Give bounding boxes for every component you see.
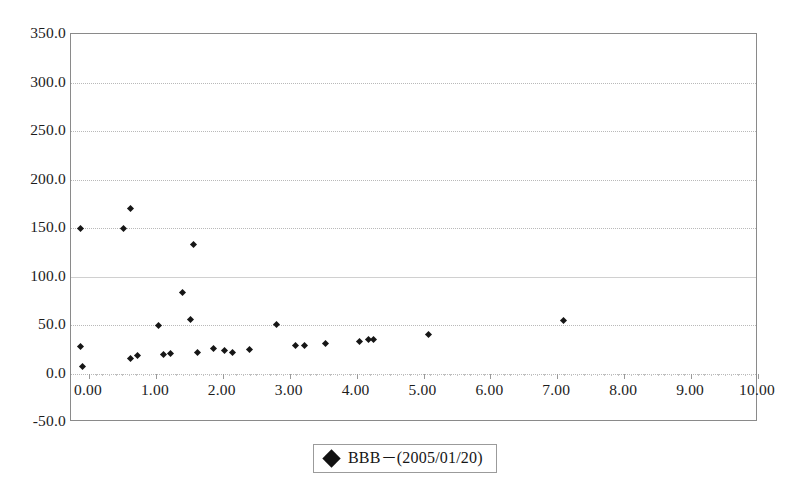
x-tick-label: 9.00 — [655, 382, 725, 398]
x-tick-label: 4.00 — [321, 382, 391, 398]
x-tick-label: 2.00 — [187, 382, 257, 398]
x-tick-label: 1.00 — [120, 382, 190, 398]
x-tick-label: 5.00 — [388, 382, 458, 398]
x-tick-label: 6.00 — [454, 382, 524, 398]
x-tick-label: 8.00 — [588, 382, 658, 398]
chart-legend: BBB－(2005/01/20) — [313, 444, 497, 473]
x-tick-label: 0.00 — [53, 382, 123, 398]
x-axis-labels: 0.001.002.003.004.005.006.007.008.009.00… — [0, 0, 788, 496]
legend-series-label: BBB－(2005/01/20) — [348, 450, 483, 466]
scatter-chart: 350.0300.0250.0200.0150.0100.050.00.0-50… — [0, 0, 788, 496]
diamond-marker-icon — [322, 449, 340, 467]
x-tick-label: 10.00 — [722, 382, 788, 398]
x-tick-label: 7.00 — [521, 382, 591, 398]
x-tick-label: 3.00 — [254, 382, 324, 398]
